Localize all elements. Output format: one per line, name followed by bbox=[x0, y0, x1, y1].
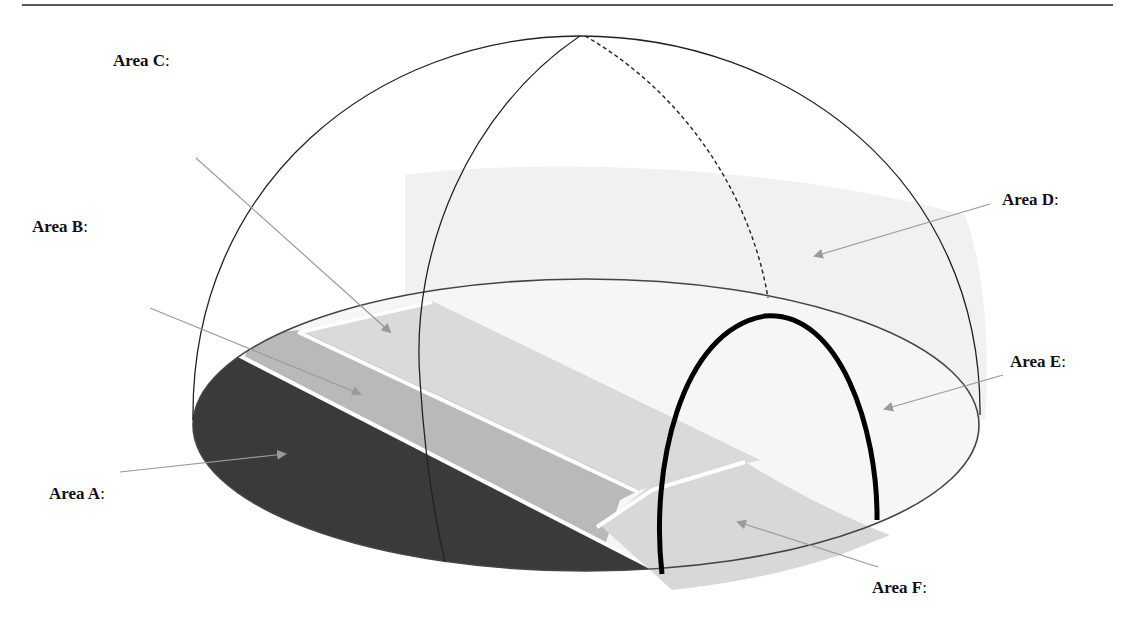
label-colon: : bbox=[922, 578, 927, 597]
label-colon: : bbox=[1061, 352, 1066, 371]
label-text: Area D bbox=[1002, 190, 1054, 209]
label-colon: : bbox=[1054, 190, 1059, 209]
label-area-c: Area C: bbox=[113, 51, 170, 71]
label-colon: : bbox=[165, 51, 170, 70]
label-area-b: Area B: bbox=[32, 217, 88, 237]
arrow-area-c bbox=[196, 158, 390, 332]
label-text: Area F bbox=[872, 578, 922, 597]
label-text: Area C bbox=[113, 51, 165, 70]
dome-diagram bbox=[0, 0, 1135, 634]
label-text: Area E bbox=[1010, 352, 1061, 371]
label-area-e: Area E: bbox=[1010, 352, 1066, 372]
label-area-d: Area D: bbox=[1002, 190, 1059, 210]
label-colon: : bbox=[83, 217, 88, 236]
label-text: Area A bbox=[49, 484, 100, 503]
label-colon: : bbox=[100, 484, 105, 503]
label-area-f: Area F: bbox=[872, 578, 927, 598]
label-area-a: Area A: bbox=[49, 484, 105, 504]
label-text: Area B bbox=[32, 217, 83, 236]
